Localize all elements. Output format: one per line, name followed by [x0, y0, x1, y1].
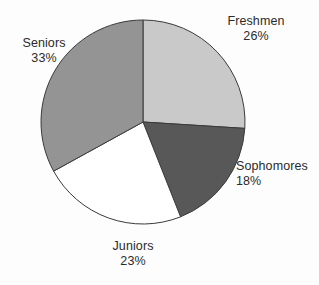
pie-chart: Freshmen 26% Sophomores 18% Juniors 23% … [0, 0, 319, 285]
pie-label-freshmen-name: Freshmen [206, 14, 306, 29]
pie-label-seniors: Seniors 33% [2, 36, 86, 66]
pie-label-juniors: Juniors 23% [78, 239, 188, 269]
pie-label-juniors-name: Juniors [78, 239, 188, 254]
pie-label-sophomores-name: Sophomores [236, 159, 319, 174]
pie-label-freshmen-percent: 26% [206, 29, 306, 44]
pie-label-seniors-name: Seniors [2, 36, 86, 51]
pie-label-freshmen: Freshmen 26% [206, 14, 306, 44]
pie-label-sophomores-percent: 18% [236, 174, 319, 189]
pie-label-juniors-percent: 23% [78, 254, 188, 269]
pie-label-sophomores: Sophomores 18% [236, 159, 319, 189]
pie-label-seniors-percent: 33% [2, 51, 86, 66]
